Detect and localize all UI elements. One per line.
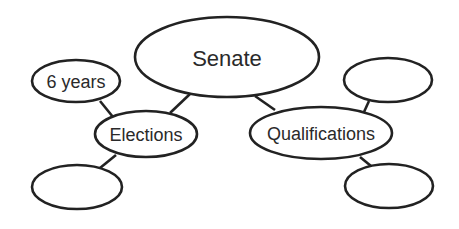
connector-elections-elections-blank	[100, 155, 116, 168]
node-qualifications-blank-bottom[interactable]	[345, 164, 433, 208]
node-elections: Elections	[95, 111, 197, 157]
connector-senate-elections	[170, 94, 190, 113]
node-label: Senate	[192, 46, 262, 71]
node-elections-blank[interactable]	[32, 165, 122, 209]
node-label: 6 years	[46, 72, 105, 92]
blank-ellipse[interactable]	[345, 164, 433, 208]
blank-ellipse[interactable]	[32, 165, 122, 209]
node-senate: Senate	[135, 17, 319, 97]
node-label: Elections	[109, 125, 182, 145]
connector-senate-qualifications	[255, 96, 275, 110]
concept-nodes: SenateElectionsQualifications6 years	[32, 17, 433, 209]
node-label: Qualifications	[267, 124, 375, 144]
connector-qualifications-qualifications-blank-top	[364, 101, 369, 112]
node-qualifications: Qualifications	[250, 107, 392, 159]
node-six-years: 6 years	[32, 60, 120, 102]
connector-elections-six-years	[100, 101, 113, 117]
blank-ellipse[interactable]	[344, 58, 432, 102]
node-qualifications-blank-top[interactable]	[344, 58, 432, 102]
concept-web-diagram: SenateElectionsQualifications6 years	[0, 0, 459, 229]
connector-qualifications-qualifications-blank-bottom	[360, 157, 371, 166]
